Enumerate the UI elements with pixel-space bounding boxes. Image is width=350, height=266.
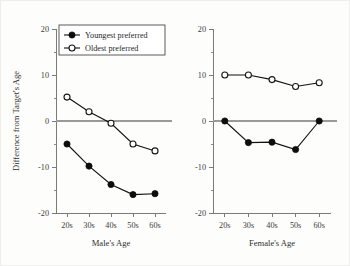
two-panel-line-chart: 20100-10-2020s30s40s50s60sMale's AgeDiff… — [1, 1, 350, 266]
x-axis-title-female: Female's Age — [249, 238, 295, 248]
data-point-female-1-50s — [293, 84, 299, 90]
x-tick-label-female-50s: 50s — [290, 221, 301, 230]
x-tick-label-female-20s: 20s — [219, 221, 230, 230]
data-point-female-1-60s — [316, 80, 322, 86]
y-tick-label-female--10: -10 — [195, 163, 206, 172]
x-tick-label-male-20s: 20s — [61, 221, 72, 230]
data-point-female-0-60s — [316, 118, 322, 124]
x-tick-label-male-50s: 50s — [127, 221, 138, 230]
legend-label-0: Youngest preferred — [85, 31, 148, 40]
data-point-male-1-60s — [152, 148, 158, 154]
data-point-male-1-30s — [86, 109, 92, 115]
y-tick-label-male--20: -20 — [38, 209, 49, 218]
x-tick-label-male-60s: 60s — [149, 221, 160, 230]
panel-male: 20100-10-2020s30s40s50s60sMale's AgeDiff… — [11, 25, 172, 248]
data-point-male-0-20s — [64, 141, 70, 147]
x-axis-title-male: Male's Age — [92, 238, 131, 248]
data-point-female-0-50s — [293, 146, 299, 152]
y-tick-label-male-10: 10 — [41, 71, 49, 80]
y-tick-label-male--10: -10 — [38, 163, 49, 172]
data-point-female-0-40s — [269, 139, 275, 145]
y-tick-label-female-10: 10 — [198, 71, 206, 80]
y-tick-label-male-0: 0 — [45, 117, 49, 126]
data-point-male-0-40s — [108, 181, 114, 187]
y-tick-label-female-0: 0 — [202, 117, 206, 126]
x-tick-label-male-30s: 30s — [83, 221, 94, 230]
y-axis-title-male: Difference from Target's Age — [11, 71, 21, 171]
data-point-female-1-30s — [245, 72, 251, 78]
data-point-male-1-40s — [108, 120, 114, 126]
x-tick-label-female-40s: 40s — [266, 221, 277, 230]
legend-marker-filled-circle-0 — [69, 32, 75, 38]
data-point-male-0-60s — [152, 191, 158, 197]
data-point-male-1-50s — [130, 141, 136, 147]
legend: Youngest preferredOldest preferred — [59, 25, 165, 55]
data-point-male-0-30s — [86, 163, 92, 169]
data-point-female-1-20s — [222, 72, 228, 78]
legend-label-1: Oldest preferred — [85, 44, 138, 53]
data-point-male-0-50s — [130, 192, 136, 198]
data-point-female-0-30s — [245, 140, 251, 146]
x-tick-label-female-60s: 60s — [314, 221, 325, 230]
data-point-female-0-20s — [222, 118, 228, 124]
y-tick-label-female--20: -20 — [195, 209, 206, 218]
panel-female: 20100-10-2020s30s40s50s60sFemale's Age — [195, 25, 337, 248]
figure-container: 20100-10-2020s30s40s50s60sMale's AgeDiff… — [0, 0, 350, 266]
data-point-female-1-40s — [269, 77, 275, 83]
x-tick-label-female-30s: 30s — [243, 221, 254, 230]
legend-marker-open-circle-1 — [69, 45, 75, 51]
x-tick-label-male-40s: 40s — [105, 221, 116, 230]
y-tick-label-male-20: 20 — [41, 25, 49, 34]
data-point-male-1-20s — [64, 94, 70, 100]
y-tick-label-female-20: 20 — [198, 25, 206, 34]
